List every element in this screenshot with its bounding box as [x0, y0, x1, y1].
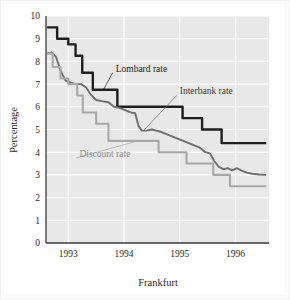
series-label-discount: Discount rate [79, 149, 130, 159]
y-tick-label: 3 [35, 170, 40, 180]
y-tick-label: 0 [35, 238, 40, 248]
y-tick-label: 9 [35, 34, 40, 44]
x-tick-label: 1993 [59, 249, 78, 259]
series-label-interbank: Interbank rate [180, 86, 233, 96]
y-tick-label: 4 [35, 148, 40, 158]
y-tick-label: 10 [31, 11, 41, 21]
x-tick-label: 1995 [170, 249, 189, 259]
series-label-lombard: Lombard rate [116, 64, 167, 74]
y-tick-label: 2 [35, 193, 40, 203]
y-axis-tick-labels: 012345678910 [31, 11, 41, 248]
chart-figure: 012345678910 1993199419951996 Lombard ra… [0, 0, 290, 300]
y-tick-label: 6 [35, 102, 40, 112]
y-tick-label: 7 [35, 80, 40, 90]
y-tick-label: 5 [35, 125, 40, 135]
line-chart: 012345678910 1993199419951996 Lombard ra… [0, 0, 290, 300]
x-axis-title: Frankfurt [138, 277, 178, 288]
x-tick-label: 1994 [115, 249, 134, 259]
y-tick-label: 8 [35, 57, 40, 67]
x-tick-label: 1996 [226, 249, 245, 259]
y-axis-title: Percentage [8, 107, 19, 153]
x-axis-tick-labels: 1993199419951996 [59, 249, 246, 259]
y-tick-label: 1 [35, 216, 40, 226]
